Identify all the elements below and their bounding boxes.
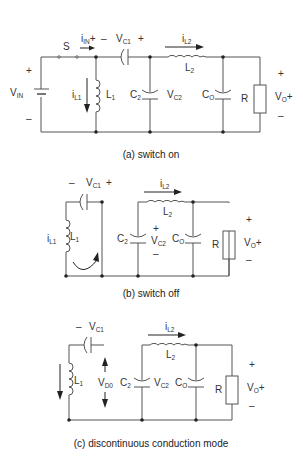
label-switch-s: S bbox=[63, 41, 70, 52]
label-c2: C2 bbox=[130, 89, 141, 101]
label-l2: L2 bbox=[185, 62, 195, 74]
label-vin: VIN bbox=[10, 87, 23, 99]
label-iin: iIN+ bbox=[81, 33, 96, 45]
switch-s-icon bbox=[58, 56, 78, 58]
label-vc1-minus: – bbox=[101, 33, 107, 44]
label-vc1: VC1 bbox=[86, 177, 101, 189]
label-vc1-plus: + bbox=[138, 33, 144, 44]
arrow-iin-icon bbox=[80, 46, 95, 51]
inductor-l1-icon bbox=[96, 80, 100, 112]
label-vo-plus-top: + bbox=[249, 359, 255, 370]
inductor-l2-icon bbox=[147, 200, 185, 202]
curved-arrow-il1-icon bbox=[73, 252, 99, 270]
caption-b: (b) switch off bbox=[123, 288, 180, 299]
panel-c-dcm: – VC1 iL2 L2 L1 VD0 C2 VC2 CO R + VO+ – … bbox=[57, 321, 265, 449]
capacitor-c1-icon bbox=[80, 194, 87, 210]
label-vo-minus: – bbox=[278, 110, 284, 121]
label-l2: L2 bbox=[163, 206, 173, 218]
label-vc2-minus: – bbox=[153, 248, 159, 259]
label-vin-plus: + bbox=[26, 65, 32, 76]
label-vc1-plus: + bbox=[106, 177, 112, 188]
label-l1: L1 bbox=[70, 231, 80, 243]
label-co: CO bbox=[202, 89, 214, 101]
inductor-l2-icon bbox=[168, 55, 206, 57]
label-l1: L1 bbox=[106, 89, 116, 101]
arrow-il1-icon bbox=[84, 78, 90, 113]
label-vc1: VC1 bbox=[89, 321, 104, 333]
label-vin-minus: – bbox=[26, 113, 32, 124]
label-vo: VO+ bbox=[275, 91, 293, 103]
label-vo-minus: – bbox=[246, 254, 252, 265]
label-vc2-plus: + bbox=[153, 223, 159, 234]
label-r: R bbox=[241, 93, 248, 104]
label-vc2: VC2 bbox=[167, 89, 182, 101]
label-il2: iL2 bbox=[182, 33, 192, 45]
label-r: R bbox=[215, 384, 222, 395]
caption-c: (c) discontinuous conduction mode bbox=[74, 438, 229, 449]
panel-b-switch-off: – VC1 + iL2 L2 iL1 L1 C2 + VC2 – CO R + … bbox=[47, 177, 262, 299]
label-il2: iL2 bbox=[165, 321, 175, 333]
capacitor-c1-icon bbox=[84, 337, 91, 353]
label-il1: iL1 bbox=[47, 233, 57, 245]
label-l1: L1 bbox=[74, 375, 84, 387]
label-il2: iL2 bbox=[160, 178, 170, 190]
label-vo-plus-top: + bbox=[278, 68, 284, 79]
caption-a: (a) switch on bbox=[123, 149, 180, 160]
label-vo-plus-top: + bbox=[246, 214, 252, 225]
label-vd0: VD0 bbox=[98, 377, 113, 389]
label-vo-minus: – bbox=[249, 400, 255, 411]
panel-a-switch-on: S iIN+ – VC1 + iL2 L2 + VIN – iL1 L1 C2 … bbox=[10, 33, 293, 160]
label-vc1: VC1 bbox=[116, 33, 131, 45]
label-vc2: VC2 bbox=[151, 235, 166, 247]
label-vo: VO+ bbox=[244, 237, 262, 249]
label-co: CO bbox=[172, 233, 184, 245]
inductor-l2-icon bbox=[150, 343, 188, 345]
label-vo: VO+ bbox=[247, 382, 265, 394]
arrow-il1-down-icon bbox=[57, 364, 63, 400]
resistor-r-icon bbox=[254, 85, 266, 113]
resistor-r-icon bbox=[226, 376, 238, 404]
battery-vin-icon bbox=[34, 89, 49, 94]
label-r: R bbox=[212, 239, 219, 250]
label-il1: iL1 bbox=[72, 89, 82, 101]
circuit-figure: S iIN+ – VC1 + iL2 L2 + VIN – iL1 L1 C2 … bbox=[0, 0, 303, 457]
inductor-l1-icon bbox=[69, 363, 73, 395]
label-co: CO bbox=[175, 377, 187, 389]
label-vc1-minus: – bbox=[69, 177, 75, 188]
label-c2: C2 bbox=[120, 377, 131, 389]
capacitor-c1-icon bbox=[121, 49, 128, 65]
label-vc2: VC2 bbox=[154, 377, 169, 389]
label-l2: L2 bbox=[166, 349, 176, 361]
label-c2: C2 bbox=[117, 233, 128, 245]
label-vc1-minus: – bbox=[76, 321, 82, 332]
